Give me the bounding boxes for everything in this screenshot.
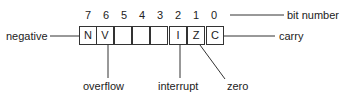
cell-overflow: V <box>96 26 114 45</box>
bit-number-6: 6 <box>97 9 115 21</box>
bit-number-3: 3 <box>151 9 169 21</box>
bit-number-0: 0 <box>205 9 223 21</box>
bit-number-label: bit number <box>287 9 339 21</box>
cell-bit-3 <box>150 26 168 45</box>
bit-number-1: 1 <box>187 9 205 21</box>
cell-negative: N <box>79 26 97 45</box>
label-carry: carry <box>279 30 303 42</box>
cell-zero: Z <box>187 26 205 45</box>
label-zero: zero <box>227 80 248 92</box>
cell-bit-5 <box>114 26 132 45</box>
cell-carry: C <box>206 26 224 45</box>
label-overflow: overflow <box>83 80 124 92</box>
bit-number-2: 2 <box>169 9 187 21</box>
cell-interrupt: I <box>169 26 187 45</box>
cell-bit-4 <box>132 26 150 45</box>
label-negative: negative <box>6 30 48 42</box>
label-interrupt: interrupt <box>158 80 198 92</box>
bit-number-4: 4 <box>133 9 151 21</box>
bit-number-5: 5 <box>115 9 133 21</box>
bit-number-7: 7 <box>79 9 97 21</box>
